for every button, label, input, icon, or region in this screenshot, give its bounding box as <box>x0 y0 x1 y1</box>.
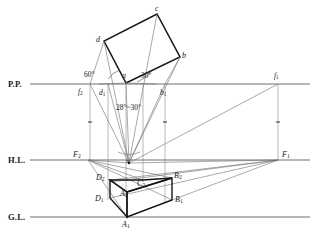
perspective-drawing-canvas: P.P. H.L. G.L. a b c d 60° 30° 28°~30° f… <box>0 0 317 243</box>
label-angle-30: 30° <box>141 71 152 80</box>
construction-line-s-f2 <box>90 84 129 163</box>
label-vanishing-point-f2: F2 <box>73 151 81 160</box>
label-box-vertex-c2: C2 <box>137 180 145 189</box>
label-trace-point-f1: f1 <box>274 72 279 81</box>
label-horizon-line: H.L. <box>8 155 25 165</box>
label-trace-point-d1: d1 <box>99 89 105 98</box>
label-cone-of-vision: 28°~30° <box>116 103 141 112</box>
label-plan-vertex-a: a <box>122 72 126 80</box>
label-vanishing-point-f1: F1 <box>282 151 290 160</box>
label-box-vertex-d2: D2 <box>96 174 105 183</box>
label-plan-vertex-c: c <box>155 5 159 13</box>
construction-line-s-f1 <box>129 84 278 163</box>
reference-lines <box>30 84 310 217</box>
label-box-vertex-b1: B1 <box>175 196 183 205</box>
label-ground-line: G.L. <box>8 212 25 222</box>
label-box-vertex-d1: D1 <box>95 195 104 204</box>
label-station-point: s <box>126 158 129 165</box>
label-trace-point-b1: b1 <box>160 89 166 98</box>
cone-of-vision-arc <box>118 152 140 155</box>
label-box-vertex-a2: A2 <box>120 190 128 199</box>
label-box-vertex-b2: B2 <box>174 172 182 181</box>
label-plan-vertex-b: b <box>182 52 186 60</box>
vertical-projectors <box>90 83 278 202</box>
arc-60 <box>108 70 120 79</box>
label-angle-60: 60° <box>84 70 95 79</box>
label-trace-point-f2: f2 <box>78 88 83 97</box>
plan-extension-lines <box>90 41 180 84</box>
vanishing-rays <box>88 160 278 217</box>
drawing-svg <box>0 0 317 243</box>
label-plan-vertex-d: d <box>96 36 100 44</box>
label-box-vertex-a1: A1 <box>122 221 130 230</box>
label-picture-plane: P.P. <box>8 79 22 89</box>
